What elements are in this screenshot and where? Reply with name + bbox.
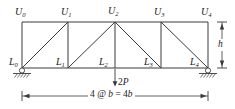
height-arrow-bottom <box>220 61 224 67</box>
joint-label-U4: U4 <box>201 7 211 17</box>
joint-label-U3: U3 <box>154 7 164 17</box>
joint-label-L0: L0 <box>9 57 18 67</box>
span-dimension-label: 4 @ b = 4b <box>88 90 135 100</box>
member-diagonal-U2-L3 <box>115 22 161 68</box>
member-diagonal-U3-L4 <box>161 22 208 68</box>
joint-label-U0: U0 <box>15 7 25 17</box>
joint-label-U2: U2 <box>108 6 118 16</box>
joint-label-L3: L3 <box>144 57 153 67</box>
joint-label-L2: L2 <box>99 57 108 67</box>
roller-support-hatching <box>201 74 216 78</box>
truss-figure: U0 U1 U2 U3 U4 L0 L1 L2 L3 L4 2P 4 @ b =… <box>0 0 235 109</box>
roller-support-circle <box>205 68 210 73</box>
height-arrow-top <box>220 24 224 30</box>
pin-support-circle <box>19 68 24 73</box>
height-dimension-label: h <box>218 39 223 51</box>
span-arrow-left <box>24 94 30 98</box>
load-label-2P: 2P <box>118 78 129 88</box>
pin-support-hatching <box>15 74 30 78</box>
joint-label-U1: U1 <box>61 7 71 17</box>
load-arrow-head <box>113 81 118 86</box>
span-arrow-right <box>201 94 207 98</box>
joint-label-L4: L4 <box>190 57 199 67</box>
joint-label-L1: L1 <box>56 57 65 67</box>
